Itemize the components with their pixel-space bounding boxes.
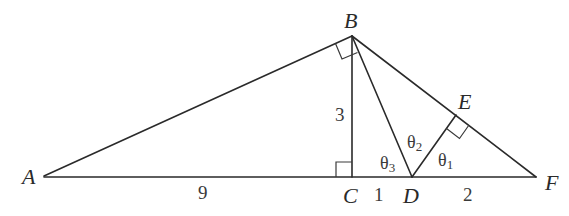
point-label-D: D [402,183,419,208]
length-label-CD: 1 [374,184,384,205]
angle-label-theta1: θ1 [438,150,453,172]
angle-label-theta2: θ2 [407,132,422,154]
geometry-diagram: A B C D E F 9 3 1 2 θ3 θ2 θ1 [0,0,569,216]
segment-AB [44,36,352,176]
length-label-BC: 3 [335,104,345,125]
point-label-F: F [544,170,559,195]
angle-label-theta3: θ3 [380,153,395,175]
right-angle-marker-C [336,162,352,177]
point-label-E: E [457,89,472,114]
point-label-B: B [344,8,357,33]
length-label-DF: 2 [463,184,473,205]
right-angle-marker-E [447,125,470,139]
right-angle-marker-B [336,44,358,60]
length-label-AC: 9 [198,182,208,203]
point-label-C: C [343,183,358,208]
point-label-A: A [20,164,36,189]
